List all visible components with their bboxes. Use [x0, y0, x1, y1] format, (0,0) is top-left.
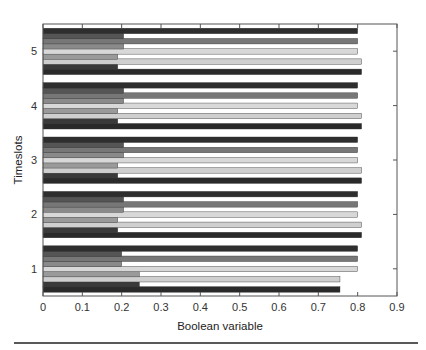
bar [43, 137, 358, 143]
bar [43, 142, 124, 148]
x-tick-label: 0.1 [75, 301, 90, 313]
x-tick-label: 0.4 [193, 301, 208, 313]
y-tick-label: 1 [31, 263, 37, 275]
bar [43, 266, 358, 272]
bar [43, 59, 362, 65]
bar [43, 173, 118, 179]
y-axis-label: Timeslots [12, 135, 24, 184]
x-tick-label: 0.3 [153, 301, 168, 313]
bar [43, 207, 124, 213]
bar [43, 168, 362, 174]
bar [43, 282, 139, 288]
bar [43, 123, 362, 129]
bar [43, 113, 362, 119]
bar [43, 108, 118, 114]
bar [43, 103, 358, 109]
bar [43, 64, 118, 70]
y-tick-label: 4 [31, 100, 37, 112]
bar [43, 197, 124, 203]
bar [43, 118, 118, 124]
bar [43, 261, 122, 267]
bar [43, 93, 358, 99]
x-tick-label: 0.6 [271, 301, 286, 313]
bar [43, 44, 124, 50]
bar [43, 88, 124, 94]
bar [43, 251, 122, 257]
bar [43, 157, 358, 163]
bar [43, 38, 358, 44]
bar [43, 178, 362, 184]
bar [43, 147, 358, 153]
x-tick-label: 0.7 [311, 301, 326, 313]
bar [43, 49, 358, 55]
bar [43, 69, 362, 75]
bar [43, 191, 358, 197]
bar-chart: 00.10.20.30.40.50.60.70.80.9 12345 Boole… [0, 0, 426, 350]
x-tick-label: 0.8 [350, 301, 365, 313]
bar [43, 54, 118, 60]
y-tick-label: 5 [31, 45, 37, 57]
bar [43, 276, 340, 282]
bar [43, 227, 118, 233]
bar [43, 246, 358, 252]
y-tick-label: 3 [31, 154, 37, 166]
bar [43, 33, 124, 39]
bar [43, 98, 124, 104]
x-tick-label: 0.2 [114, 301, 129, 313]
bar [43, 217, 118, 223]
bar [43, 287, 340, 293]
y-tick-label: 2 [31, 208, 37, 220]
bars-layer [43, 28, 362, 292]
bar [43, 256, 358, 262]
bar [43, 163, 118, 169]
x-axis-label: Boolean variable [177, 320, 263, 332]
bar [43, 83, 358, 89]
x-tick-label: 0.5 [232, 301, 247, 313]
bar [43, 222, 362, 228]
x-tick-label: 0 [40, 301, 46, 313]
x-tick-label: 0.9 [389, 301, 404, 313]
bar [43, 212, 358, 218]
bar [43, 28, 358, 34]
bar [43, 271, 139, 277]
bar [43, 152, 124, 158]
bar [43, 232, 362, 238]
bar [43, 202, 358, 208]
